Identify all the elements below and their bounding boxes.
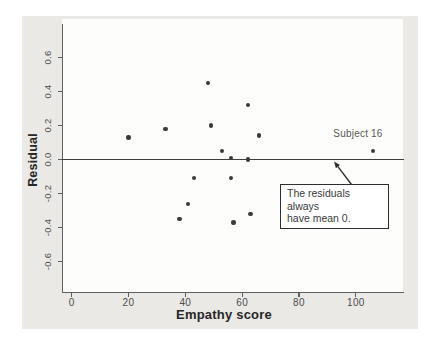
callout-text-line2: have mean 0. [287,212,351,224]
scatter-point [246,157,250,161]
y-tick-mark [58,91,63,92]
scatter-point [209,123,213,127]
y-tick-label: -0.4 [42,214,53,242]
x-tick-label: 20 [114,297,142,308]
x-tick-mark [242,292,243,297]
y-tick-mark [58,125,63,126]
scatter-point [163,127,167,131]
y-tick-mark [58,57,63,58]
x-tick-mark [298,292,299,297]
y-tick-mark [58,261,63,262]
scatter-point [248,212,252,216]
scatter-point [177,217,181,221]
scatter-point [229,156,233,160]
y-tick-mark [58,227,63,228]
y-tick-label: -0.6 [42,248,53,276]
subject-16-label: Subject 16 [318,128,398,139]
y-tick-label: 0.6 [42,43,53,71]
y-tick-mark [58,193,63,194]
x-tick-label: 60 [228,297,256,308]
x-tick-mark [128,292,129,297]
scatter-point [231,220,235,224]
x-tick-mark [71,292,72,297]
x-axis-line [62,292,404,293]
x-tick-label: 0 [58,297,86,308]
y-tick-label: 0.2 [42,111,53,139]
callout-text-line1: The residuals always [287,187,350,212]
x-axis-title: Empathy score [154,307,294,322]
plot-area [62,19,403,292]
y-tick-label: 0.0 [42,146,53,174]
x-tick-label: 80 [285,297,313,308]
x-tick-label: 100 [342,297,370,308]
y-axis-title: Residual [26,124,40,196]
residual-plot-figure: Residual Empathy score Subject 16 The re… [0,0,431,348]
x-tick-label: 40 [171,297,199,308]
x-tick-mark [185,292,186,297]
callout-box: The residuals always have mean 0. [280,184,389,229]
y-tick-mark [58,159,63,160]
x-tick-mark [355,292,356,297]
y-tick-label: 0.4 [42,77,53,105]
scatter-point [126,135,130,139]
y-tick-label: -0.2 [42,180,53,208]
